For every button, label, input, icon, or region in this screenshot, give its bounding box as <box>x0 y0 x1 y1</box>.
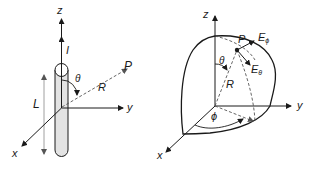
current-label: I <box>66 45 69 56</box>
point-p-label-right: P <box>238 34 245 45</box>
projection-dashed <box>215 106 253 121</box>
theta-label-right: θ <box>219 56 224 66</box>
radius-label-left: R <box>98 82 106 93</box>
x-axis-label-right: x <box>157 150 163 161</box>
e-theta-label: Eθ <box>251 64 262 76</box>
x-axis-label-left: x <box>12 148 18 159</box>
y-axis-label-left: y <box>127 102 133 113</box>
radius-label-right: R <box>226 79 234 90</box>
diagram-canvas <box>0 0 314 169</box>
radius-vector-left <box>62 69 127 107</box>
length-label: L <box>33 98 40 110</box>
e-theta-arrow <box>237 50 250 65</box>
phi-label: ϕ <box>211 111 217 122</box>
x-axis-right <box>166 106 215 152</box>
phi-arc <box>195 119 243 128</box>
z-axis-label-right: z <box>203 9 209 20</box>
left-dipole-diagram <box>22 19 127 157</box>
theta-label-left: θ <box>75 74 80 84</box>
point-p-label-left: P <box>124 60 132 72</box>
e-phi-label: Eϕ <box>258 32 269 44</box>
z-axis-label-left: z <box>57 5 63 16</box>
y-axis-label-right: y <box>297 100 303 111</box>
